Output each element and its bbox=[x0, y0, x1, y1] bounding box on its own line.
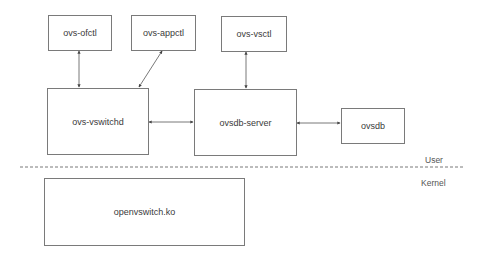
node-openvswitch-ko: openvswitch.ko bbox=[44, 178, 245, 246]
node-ovs-vswitchd: ovs-vswitchd bbox=[47, 88, 149, 155]
node-ovs-ofctl: ovs-ofctl bbox=[48, 15, 112, 51]
node-label: ovs-appctl bbox=[143, 28, 184, 38]
node-ovsdb: ovsdb bbox=[341, 108, 405, 144]
node-ovs-vsctl: ovs-vsctl bbox=[221, 16, 287, 52]
node-label: ovs-vswitchd bbox=[72, 117, 124, 127]
node-ovs-appctl: ovs-appctl bbox=[131, 15, 196, 51]
node-ovsdb-server: ovsdb-server bbox=[194, 89, 297, 156]
region-label-user: User bbox=[425, 155, 443, 165]
node-label: openvswitch.ko bbox=[114, 207, 176, 217]
node-label: ovsdb-server bbox=[219, 118, 271, 128]
edge-appctl-vswitchd bbox=[139, 51, 162, 87]
region-label-kernel: Kernel bbox=[421, 178, 446, 188]
node-label: ovsdb bbox=[361, 121, 385, 131]
node-label: ovs-ofctl bbox=[63, 28, 97, 38]
node-label: ovs-vsctl bbox=[236, 29, 271, 39]
